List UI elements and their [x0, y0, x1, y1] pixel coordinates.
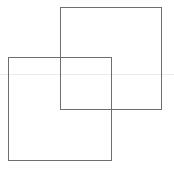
square-front — [8, 57, 112, 161]
